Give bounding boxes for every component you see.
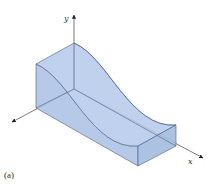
y-axis-label: y bbox=[63, 14, 69, 23]
solid-diagram: y x bbox=[0, 0, 216, 190]
figure-caption: (a) bbox=[4, 170, 14, 180]
x-axis-label: x bbox=[188, 157, 193, 166]
